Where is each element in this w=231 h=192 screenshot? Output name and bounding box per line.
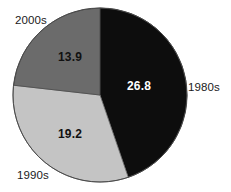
pie-category-label-2000s: 2000s: [15, 14, 47, 26]
pie-chart-graphic: [0, 0, 231, 192]
pie-category-label-1990s: 1990s: [17, 169, 49, 181]
pie-value-label-1980s: 26.8: [127, 80, 151, 92]
pie-category-label-1980s: 1980s: [188, 81, 220, 93]
pie-chart: 26.8 19.2 13.9 1980s 1990s 2000s: [0, 0, 231, 192]
pie-value-label-2000s: 13.9: [58, 51, 82, 63]
pie-value-label-1990s: 19.2: [58, 128, 82, 140]
